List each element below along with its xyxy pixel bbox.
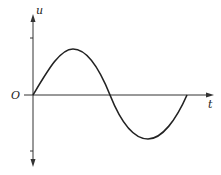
y-axis-arrow-down-icon [31,159,36,167]
sine-curve [33,49,187,139]
x-axis-label: t [208,98,213,111]
y-axis-label: u [36,4,43,17]
origin-label: O [11,89,20,102]
y-axis-arrow-up-icon [31,14,36,22]
waveform-diagram: u t O [0,0,221,175]
x-axis-arrow-right-icon [206,93,214,98]
